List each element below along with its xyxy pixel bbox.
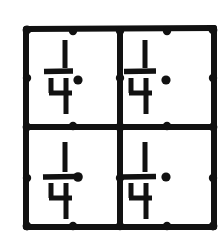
cell-top-left-fraction-bar [44, 71, 73, 72]
dot-bottom-edge-left-mid [69, 222, 77, 230]
dot-bottom-left-corner [23, 222, 32, 231]
cell-top-right-fraction-bar [124, 71, 156, 72]
dot-horizontal-divider-right-mid [163, 122, 171, 130]
dot-top-right-corner [209, 26, 218, 35]
dot-left-edge-lower-mid [23, 174, 31, 182]
dot-right-edge-lower-mid [209, 174, 217, 182]
cell-top-left-marker-dot [73, 75, 82, 84]
dot-top-edge-left-mid [69, 27, 77, 35]
dot-right-edge-upper-mid [209, 74, 217, 82]
cell-bottom-left-marker-dot [73, 172, 83, 182]
dot-vertical-divider-upper-mid [116, 74, 124, 82]
dot-top-edge-right-mid [163, 27, 171, 35]
dot-grid-center [115, 122, 124, 131]
dot-bottom-edge-right-mid [163, 222, 171, 230]
dot-top-edge-center [116, 27, 124, 35]
dot-right-edge-center [209, 123, 218, 132]
dot-bottom-edge-center [116, 222, 124, 230]
figure-background [0, 0, 223, 247]
dot-left-edge-upper-mid [23, 74, 31, 82]
cell-bottom-right-fraction-bar [122, 177, 156, 178]
dot-horizontal-divider-left-mid [69, 122, 77, 130]
dot-left-edge-center [23, 123, 32, 132]
cell-bottom-right-marker-dot [161, 172, 170, 181]
dot-bottom-right-corner [209, 222, 218, 231]
cell-bottom-left-fraction-bar [43, 177, 77, 178]
fraction-grid-canvas [0, 0, 223, 247]
cell-top-right-marker-dot [161, 75, 170, 84]
dot-top-left-corner [23, 26, 32, 35]
fraction-grid-figure: Square partitioned into four equal parts… [0, 0, 223, 247]
